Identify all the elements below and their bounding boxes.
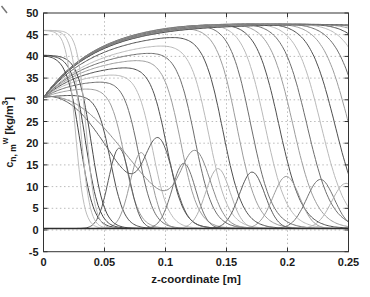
x-axis-label: z-coordinate [m]: [151, 273, 241, 285]
y-tick-label: 40: [26, 50, 38, 62]
figure-background: [0, 0, 370, 297]
y-tick-label: 50: [26, 7, 38, 19]
y-tick-label: 0: [32, 224, 38, 236]
y-tick-label: -5: [29, 246, 39, 258]
y-tick-label: 20: [26, 137, 38, 149]
x-tick-label: 0.15: [216, 256, 237, 268]
y-tick-label: 10: [26, 181, 38, 193]
x-tick-label: 0.1: [158, 256, 173, 268]
x-tick-label: 0.25: [338, 256, 359, 268]
y-tick-label: 30: [26, 94, 38, 106]
y-tick-label: 5: [32, 202, 38, 214]
x-tick-label: 0.05: [94, 256, 115, 268]
y-tick-label: 25: [26, 116, 38, 128]
figure-window: 00.050.10.150.20.25-50510152025303540455…: [0, 0, 370, 297]
x-tick-label: 0.2: [280, 256, 295, 268]
x-tick-label: 0: [40, 256, 46, 268]
concentration-profiles-chart: 00.050.10.150.20.25-50510152025303540455…: [0, 0, 370, 297]
y-tick-label: 35: [26, 72, 38, 84]
y-tick-label: 45: [26, 29, 38, 41]
y-tick-label: 15: [26, 159, 38, 171]
